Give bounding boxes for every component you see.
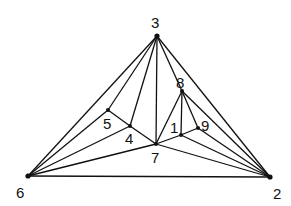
edge-3-6 xyxy=(28,36,157,176)
node-2 xyxy=(267,174,272,179)
node-1 xyxy=(179,133,183,137)
labels-layer: 123456789 xyxy=(16,14,281,202)
node-4 xyxy=(128,124,132,128)
node-label-4: 4 xyxy=(125,130,133,147)
node-9 xyxy=(196,126,200,130)
graph-canvas: 123456789 xyxy=(0,0,291,206)
node-label-3: 3 xyxy=(151,14,159,31)
nodes-layer xyxy=(25,33,272,179)
node-label-9: 9 xyxy=(201,117,209,134)
edge-3-7 xyxy=(156,36,157,144)
node-5 xyxy=(106,108,110,112)
edge-1-9 xyxy=(181,128,198,135)
node-6 xyxy=(25,173,30,178)
edge-9-2 xyxy=(198,128,270,177)
node-label-8: 8 xyxy=(176,74,184,91)
node-label-6: 6 xyxy=(16,184,24,201)
edges-layer xyxy=(28,36,270,177)
node-label-1: 1 xyxy=(170,119,178,136)
node-label-5: 5 xyxy=(103,115,111,132)
edge-6-2 xyxy=(28,176,270,177)
edge-8-1 xyxy=(181,91,182,135)
edge-3-4 xyxy=(130,36,157,126)
node-label-7: 7 xyxy=(151,149,159,166)
graph-diagram: 123456789 xyxy=(0,0,291,206)
edge-8-9 xyxy=(182,91,198,128)
edge-1-2 xyxy=(181,135,270,177)
node-label-2: 2 xyxy=(273,185,281,202)
node-7 xyxy=(154,142,158,146)
node-3 xyxy=(154,33,159,38)
edge-3-5 xyxy=(108,36,157,110)
edge-4-7 xyxy=(130,126,156,144)
